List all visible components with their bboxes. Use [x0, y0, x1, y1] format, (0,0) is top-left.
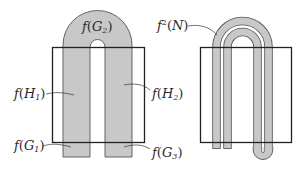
label-f-g1: f(G1): [13, 138, 44, 154]
diagram-canvas: f(G2) f(H1) f(H2) f(G1) f(G3): [0, 0, 304, 170]
label-f2-n: f2(N): [156, 18, 188, 33]
label-f-h2: f(H2): [151, 86, 183, 102]
inner-band: [228, 32, 258, 148]
left-diagram: f(G2) f(H1) f(H2) f(G1) f(G3): [13, 11, 183, 162]
bottom-u-turn-inner: [262, 147, 265, 153]
label-f-h1: f(H1): [13, 86, 45, 102]
inner-band-fill: [228, 32, 258, 148]
label-f-g3: f(G3): [151, 145, 182, 161]
leader-line-f2n: [188, 25, 217, 35]
label-f-g2: f(G2): [81, 19, 112, 35]
right-diagram: f2(N): [156, 18, 292, 160]
